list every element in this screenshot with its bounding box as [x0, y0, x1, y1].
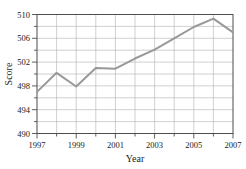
x-axis-title: Year: [126, 153, 145, 164]
y-axis-tick-label: 506: [17, 33, 30, 43]
x-axis-tick-label: 2003: [146, 140, 163, 150]
y-axis-title: Score: [3, 62, 14, 85]
x-axis-tick-label: 1999: [68, 140, 85, 150]
x-axis-tick-label: 2005: [185, 140, 202, 150]
y-axis-tick-label: 498: [17, 81, 30, 91]
chart-canvas: 490494498502506510 199719992001200320052…: [0, 0, 246, 169]
x-axis-tick-label: 1997: [29, 140, 46, 150]
y-axis-tick-label: 510: [17, 10, 30, 20]
x-axis-ticks: [37, 134, 233, 139]
x-axis-tick-label: 2001: [107, 140, 124, 150]
x-axis-tick-labels: 199719992001200320052007: [29, 140, 242, 150]
y-axis-ticks: [32, 15, 37, 134]
y-axis-tick-labels: 490494498502506510: [17, 10, 31, 139]
y-axis-tick-label: 502: [17, 57, 30, 67]
y-axis-tick-label: 494: [17, 105, 31, 115]
y-axis-tick-label: 490: [17, 129, 30, 139]
x-axis-tick-label: 2007: [225, 140, 242, 150]
line-chart: 490494498502506510 199719992001200320052…: [0, 0, 246, 169]
